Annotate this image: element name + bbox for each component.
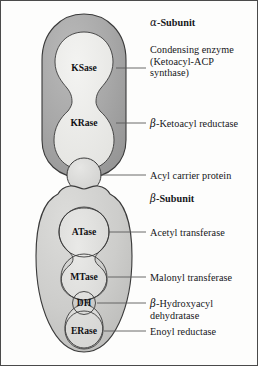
domain-label-erase: ERase	[71, 325, 98, 336]
callout-line-1: Condensing enzyme	[150, 44, 234, 55]
callout-acyl-carrier-protein: Acyl carrier protein	[150, 170, 231, 182]
domain-label-ksase: KSase	[71, 62, 97, 73]
callout-condensing-enzyme: Condensing enzyme (Ketoacyl-ACP synthase…	[150, 44, 234, 79]
callout-line-3: synthase)	[150, 67, 189, 78]
callout-line-1: Malonyl transferase	[150, 272, 232, 283]
domain-label-atase: ATase	[72, 226, 97, 237]
domain-label-krase: KRase	[70, 117, 98, 128]
callout-hydroxyacyl-dehydratase: β-Hydroxyacyl dehydratase	[150, 298, 213, 321]
callout-line-1: Enoyl reductase	[150, 326, 216, 337]
domain-label-mtase: MTase	[70, 271, 98, 282]
callout-malonyl-transferase: Malonyl transferase	[150, 272, 232, 284]
callout-line-1: -Ketoacyl reductase	[156, 118, 238, 129]
beta-subunit-label-text: -Subunit	[156, 193, 194, 204]
beta-subunit-label: β-Subunit	[150, 193, 194, 205]
alpha-subunit-shape	[42, 14, 126, 178]
callout-enoyl-reductase: Enoyl reductase	[150, 326, 216, 338]
figure-canvas: KSase KRase ATase MTase DH ERase α-Subun…	[0, 0, 258, 366]
domain-label-dh: DH	[77, 297, 92, 308]
callout-acetyl-transferase: Acetyl transferase	[150, 227, 225, 239]
callout-ketoacyl-reductase: β-Ketoacyl reductase	[150, 118, 238, 130]
alpha-glyph: α	[150, 17, 157, 28]
callout-line-2: dehydratase	[150, 310, 199, 321]
callout-line-2: (Ketoacyl-ACP	[150, 56, 214, 67]
callout-line-1: Acetyl transferase	[150, 227, 225, 238]
callout-line-1: Acyl carrier protein	[150, 170, 231, 181]
alpha-subunit-label-text: -Subunit	[157, 17, 195, 28]
alpha-subunit-label: α-Subunit	[150, 17, 195, 29]
callout-line-1: -Hydroxyacyl	[156, 298, 213, 309]
